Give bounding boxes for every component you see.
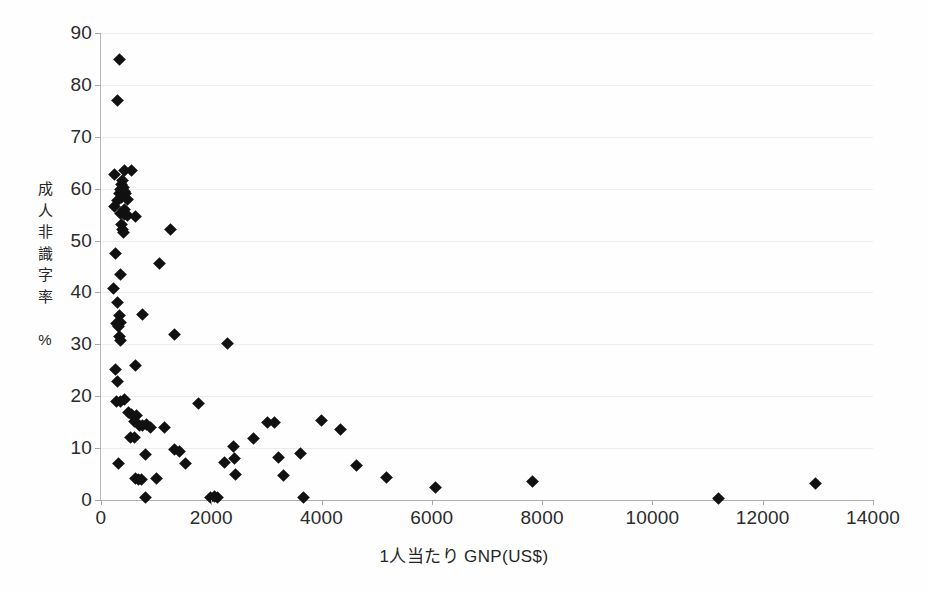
data-point-marker <box>179 457 192 470</box>
x-axis-tick-label: 12000 <box>718 508 808 528</box>
data-point-marker <box>272 451 285 464</box>
scatter-chart-figure: 0102030405060708090 成人非識字率 % 02000400060… <box>0 0 928 592</box>
x-axis-tick <box>763 500 764 505</box>
x-axis-tick-label: 8000 <box>497 508 587 528</box>
data-point-marker <box>712 492 725 505</box>
data-point-marker <box>350 459 363 472</box>
data-point-marker <box>113 54 126 67</box>
data-point-marker <box>809 478 822 491</box>
x-axis-tick <box>432 500 433 505</box>
data-point-marker <box>111 296 124 309</box>
y-axis-title-char: % <box>34 329 56 351</box>
gridline-y <box>101 344 873 345</box>
data-point-marker <box>159 421 172 434</box>
data-point-marker <box>294 447 307 460</box>
y-axis-title-char <box>34 307 56 329</box>
x-axis-tick <box>873 500 874 505</box>
data-point-marker <box>298 492 311 505</box>
gridline-y <box>101 33 873 34</box>
y-axis-tick <box>95 33 101 34</box>
y-axis-title-char: 率 <box>34 286 56 308</box>
x-axis-tick <box>542 500 543 505</box>
data-point-marker <box>192 397 205 410</box>
y-axis-tick-label: 20 <box>46 386 92 405</box>
data-point-marker <box>168 328 181 341</box>
x-axis-tick-label: 10000 <box>607 508 697 528</box>
y-axis-tick-label: 80 <box>46 75 92 94</box>
y-axis-tick <box>95 344 101 345</box>
y-axis-tick <box>95 241 101 242</box>
gridline-y <box>101 85 873 86</box>
data-point-marker <box>380 471 393 484</box>
data-point-marker <box>139 491 152 504</box>
y-axis-tick-label: 90 <box>46 23 92 42</box>
data-point-marker <box>129 359 142 372</box>
y-axis-title-char: 成 <box>34 178 56 200</box>
gridline-y <box>101 241 873 242</box>
x-axis-tick <box>652 500 653 505</box>
data-point-marker <box>111 94 124 107</box>
y-axis-title-char: 字 <box>34 264 56 286</box>
x-axis-tick-label: 2000 <box>166 508 256 528</box>
y-axis-tick <box>95 189 101 190</box>
gridline-y <box>101 396 873 397</box>
data-point-marker <box>110 247 123 260</box>
gridline-y <box>101 137 873 138</box>
data-point-marker <box>247 432 260 445</box>
y-axis-tick-label: 70 <box>46 127 92 146</box>
data-point-marker <box>126 164 139 177</box>
y-axis-title-char: 人 <box>34 200 56 222</box>
x-axis-tick <box>211 500 212 505</box>
y-axis-title-char: 識 <box>34 243 56 265</box>
y-axis-tick <box>95 292 101 293</box>
x-axis-title: 1人当たり GNP(US$) <box>0 542 928 567</box>
gridline-y <box>101 292 873 293</box>
data-point-marker <box>227 440 240 453</box>
gridline-y <box>101 448 873 449</box>
y-axis-tick <box>95 396 101 397</box>
x-axis-tick <box>322 500 323 505</box>
data-point-marker <box>334 423 347 436</box>
data-point-marker <box>429 481 442 494</box>
data-point-marker <box>315 414 328 427</box>
data-point-marker <box>526 475 539 488</box>
y-axis-tick-label: 10 <box>46 438 92 457</box>
y-axis-tick-label: 0 <box>46 490 92 509</box>
data-point-marker <box>229 452 242 465</box>
y-axis-tick <box>95 137 101 138</box>
x-axis-tick <box>101 500 102 505</box>
y-axis-tick <box>95 85 101 86</box>
data-point-marker <box>112 457 125 470</box>
data-point-marker <box>221 337 234 350</box>
data-point-marker <box>109 363 122 376</box>
plot-area <box>101 33 873 500</box>
data-point-marker <box>114 268 127 281</box>
x-axis-tick-label: 14000 <box>828 508 918 528</box>
gridline-y <box>101 189 873 190</box>
x-axis-tick-label: 4000 <box>277 508 367 528</box>
data-point-marker <box>137 308 150 321</box>
x-axis-tick-label: 6000 <box>387 508 477 528</box>
y-axis-tick <box>95 448 101 449</box>
data-point-marker <box>229 468 242 481</box>
y-axis-title-char: 非 <box>34 221 56 243</box>
data-point-marker <box>153 257 166 270</box>
data-point-marker <box>139 448 152 461</box>
x-axis-tick-label: 0 <box>56 508 146 528</box>
data-point-marker <box>164 223 177 236</box>
data-point-marker <box>277 469 290 482</box>
data-point-marker <box>111 375 124 388</box>
data-point-marker <box>150 472 163 485</box>
y-axis-title: 成人非識字率 % <box>34 178 56 350</box>
